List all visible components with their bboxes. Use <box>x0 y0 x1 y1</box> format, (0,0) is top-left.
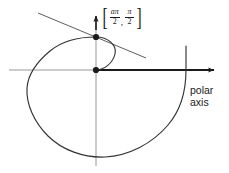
angle-denominator: 2 <box>127 18 133 26</box>
angle-numerator: π <box>127 8 133 16</box>
bracket-close: ] <box>136 7 141 28</box>
radius-denominator: 2 <box>112 18 118 26</box>
angle-fraction: π 2 <box>125 8 135 27</box>
polar-spiral-figure: [ aπ 2 , π 2 ] polar axis <box>0 0 229 173</box>
radius-fraction: aπ 2 <box>109 8 120 27</box>
polar-axis-label-line2: axis <box>190 96 213 108</box>
polar-axis-label: polar axis <box>190 84 213 108</box>
polar-axis-label-line1: polar <box>190 84 213 96</box>
tangency-point <box>93 34 99 40</box>
spiral-curve <box>27 37 186 157</box>
radius-numerator: aπ <box>110 8 120 16</box>
bracket-open: [ <box>103 7 108 28</box>
point-coordinate-label: [ aπ 2 , π 2 ] <box>101 7 143 28</box>
pole-origin-point <box>93 67 99 73</box>
